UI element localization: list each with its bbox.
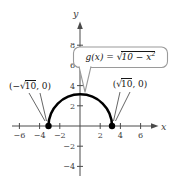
left-point-radicand: 10 bbox=[25, 80, 36, 91]
semicircle-function-figure: −6 −4 −2 2 4 6 8 6 4 2 −2 −4 x y bbox=[0, 0, 175, 185]
x-tick-label: −4 bbox=[34, 131, 46, 140]
x-tick-labels: −6 −4 −2 2 4 6 bbox=[14, 131, 144, 140]
left-point-coordinate-label: (−√10, 0) bbox=[5, 80, 55, 93]
x-tick-label: −6 bbox=[14, 131, 26, 140]
y-tick-label: −4 bbox=[63, 162, 75, 171]
right-point-leader-lines bbox=[114, 92, 131, 121]
left-endpoint-dot bbox=[45, 123, 51, 129]
y-tick-label: −2 bbox=[63, 142, 75, 151]
x-tick-label: 4 bbox=[118, 131, 123, 140]
x-axis-arrow-icon bbox=[151, 123, 159, 129]
radicand-exponent: 2 bbox=[151, 50, 155, 58]
equation-radicand: 10 − x2 bbox=[121, 51, 155, 62]
left-point-open: (− bbox=[9, 81, 20, 91]
y-axis-name-label: y bbox=[72, 8, 79, 19]
right-point-coordinate-label: (√10, 0) bbox=[105, 78, 155, 91]
radicand-text: 10 − x bbox=[121, 52, 151, 62]
x-tick-label: −2 bbox=[54, 131, 66, 140]
right-point-radicand: 10 bbox=[121, 78, 132, 89]
right-endpoint-dot bbox=[109, 123, 115, 129]
right-point-close: , 0) bbox=[132, 79, 147, 89]
left-point-close: , 0) bbox=[36, 81, 51, 91]
y-tick-label: 4 bbox=[70, 82, 75, 91]
left-point-leader-lines bbox=[29, 93, 47, 121]
equation-prefix: g(x) = bbox=[86, 52, 117, 62]
y-axis-arrow-icon bbox=[77, 22, 83, 30]
x-tick-label: 6 bbox=[138, 131, 143, 140]
y-tick-label: 8 bbox=[70, 41, 75, 50]
x-tick-label: 2 bbox=[98, 131, 103, 140]
y-tick-label: 2 bbox=[70, 102, 75, 111]
x-axis-name-label: x bbox=[161, 121, 167, 132]
function-equation-label: g(x) = √10 − x2 bbox=[75, 51, 166, 65]
